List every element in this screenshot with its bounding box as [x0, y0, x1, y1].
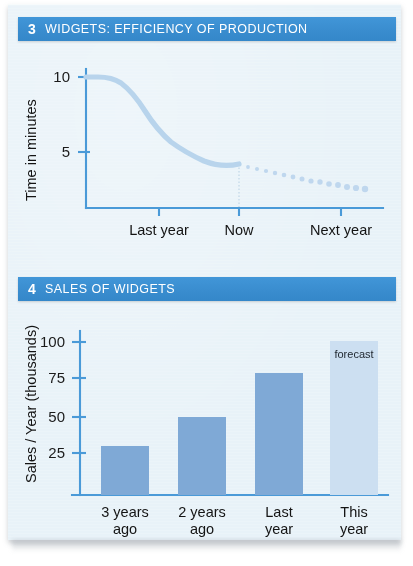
- line-chart-panel: Time in minutes 10 5 Last year Now Next …: [8, 41, 401, 256]
- page-drop-shadow: [12, 540, 401, 552]
- bar-chart-ytick-label-50: 50: [48, 408, 65, 425]
- bar-last-year: [255, 373, 303, 495]
- bar-chart-category-label-3-line1: This: [340, 504, 367, 520]
- bar-chart-category-label-0-line1: 3 years: [101, 504, 149, 520]
- section-header-3: 3 WIDGETS: EFFICIENCY OF PRODUCTION: [18, 17, 396, 41]
- section-title-3: WIDGETS: EFFICIENCY OF PRODUCTION: [45, 23, 308, 36]
- bar-chart-category-label-3-line2: year: [340, 521, 368, 537]
- bar-chart-category-label-1-line1: 2 years: [178, 504, 226, 520]
- bar-this-year: [330, 341, 378, 495]
- bar-chart-category-label-2-line1: Last: [265, 504, 292, 520]
- bar-chart-ytick-label-25: 25: [48, 444, 65, 461]
- section-header-4: 4 SALES OF WIDGETS: [18, 277, 396, 301]
- efficiency-curve-actual: [86, 77, 239, 165]
- forecast-bar-label: forecast: [334, 348, 373, 360]
- bar-chart-category-label-2-line2: year: [265, 521, 293, 537]
- line-chart-ytick-label-5: 5: [62, 143, 70, 160]
- bar-chart-ytick-label-75: 75: [48, 369, 65, 386]
- bar-chart-ylabel: Sales / Year (thousands): [23, 325, 39, 483]
- efficiency-curve-forecast: [246, 165, 368, 192]
- bar-chart-category-label-0-line2: ago: [113, 521, 137, 537]
- bar-chart-ytick-label-100: 100: [40, 333, 65, 350]
- line-chart-ylabel: Time in minutes: [23, 99, 39, 201]
- section-number-3: 3: [28, 22, 36, 36]
- bar-2-years-ago: [178, 417, 226, 495]
- section-title-4: SALES OF WIDGETS: [45, 283, 175, 296]
- line-chart-xtick-label-0: Last year: [129, 222, 189, 238]
- line-chart-ytick-label-10: 10: [53, 68, 70, 85]
- line-chart-xtick-label-2: Next year: [310, 222, 372, 238]
- bar-chart-category-label-1-line2: ago: [190, 521, 214, 537]
- section-number-4: 4: [28, 282, 36, 296]
- line-chart-svg: Time in minutes 10 5 Last year Now Next …: [8, 41, 401, 256]
- bar-3-years-ago: [101, 446, 149, 495]
- bar-chart-svg: Sales / Year (thousands) 100 75 50 25 fo…: [8, 301, 401, 540]
- line-chart-xtick-label-1: Now: [224, 222, 254, 238]
- bar-chart-panel: Sales / Year (thousands) 100 75 50 25 fo…: [8, 301, 401, 540]
- page-root: 3 WIDGETS: EFFICIENCY OF PRODUCTION Time…: [0, 0, 413, 566]
